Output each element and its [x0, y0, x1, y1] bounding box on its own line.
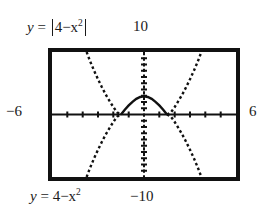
absolute-value-bar-right	[85, 19, 86, 36]
equation-bottom-expression: 4−x	[53, 188, 76, 204]
equation-bottom-variable: y	[30, 188, 37, 204]
equation-bottom-exponent: 2	[76, 187, 81, 197]
equation-label-parabola: y = 4−x2	[30, 189, 81, 204]
window-ymin-label: −10	[130, 189, 153, 204]
curve-parabola-right-down	[167, 115, 201, 178]
window-ymax-label: 10	[133, 19, 148, 34]
curve-absolute-left-up	[87, 52, 121, 115]
graph-plot	[52, 52, 236, 177]
window-xmax-label: 6	[249, 104, 257, 119]
curve-absolute-right-up	[167, 52, 201, 115]
curve-parabola-left-down	[87, 115, 121, 178]
equation-top-variable: y	[27, 19, 34, 35]
equation-top-exponent: 2	[78, 18, 83, 28]
equation-top-expression: 4−x	[55, 19, 78, 35]
window-xmin-label: −6	[6, 104, 22, 119]
equation-bottom-equals: =	[40, 188, 48, 204]
calculator-screen	[48, 48, 240, 181]
absolute-value-bar-left	[52, 19, 53, 36]
equation-top-equals: =	[37, 19, 45, 35]
equation-label-absolute-value: y = 4−x2	[27, 19, 88, 36]
